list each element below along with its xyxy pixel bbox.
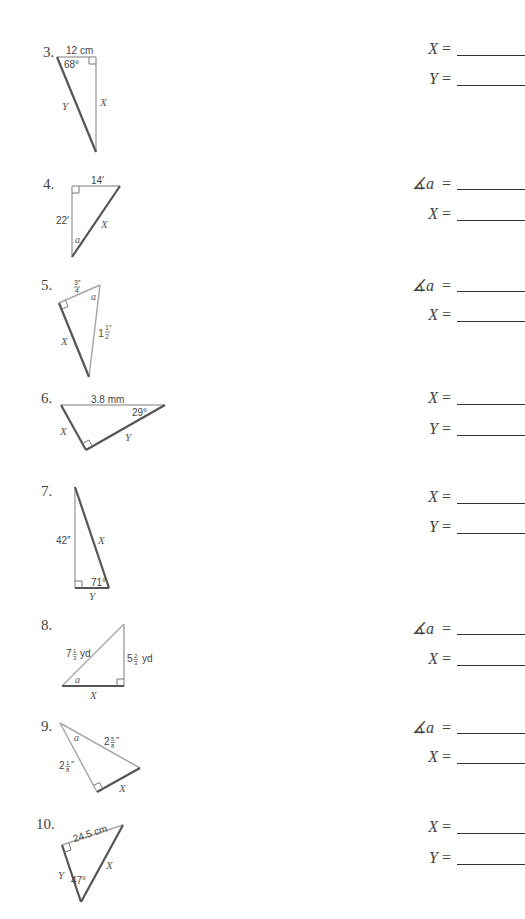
side-label: X xyxy=(105,859,114,871)
equals-sign: = xyxy=(442,818,451,835)
answer-row: X = xyxy=(365,818,525,838)
right-triangle-diagram: 24.5 cm Y 47° X xyxy=(0,0,525,919)
variable-label: X xyxy=(428,818,438,835)
answer-blank[interactable] xyxy=(457,864,525,865)
side-label: 24.5 cm xyxy=(71,823,108,844)
equals-sign: = xyxy=(442,849,451,866)
answer-row: Y = xyxy=(365,849,525,869)
angle-label: 47° xyxy=(71,875,86,886)
variable-label: Y xyxy=(429,849,438,866)
side-label: Y xyxy=(58,869,66,881)
answer-blank[interactable] xyxy=(457,833,525,834)
